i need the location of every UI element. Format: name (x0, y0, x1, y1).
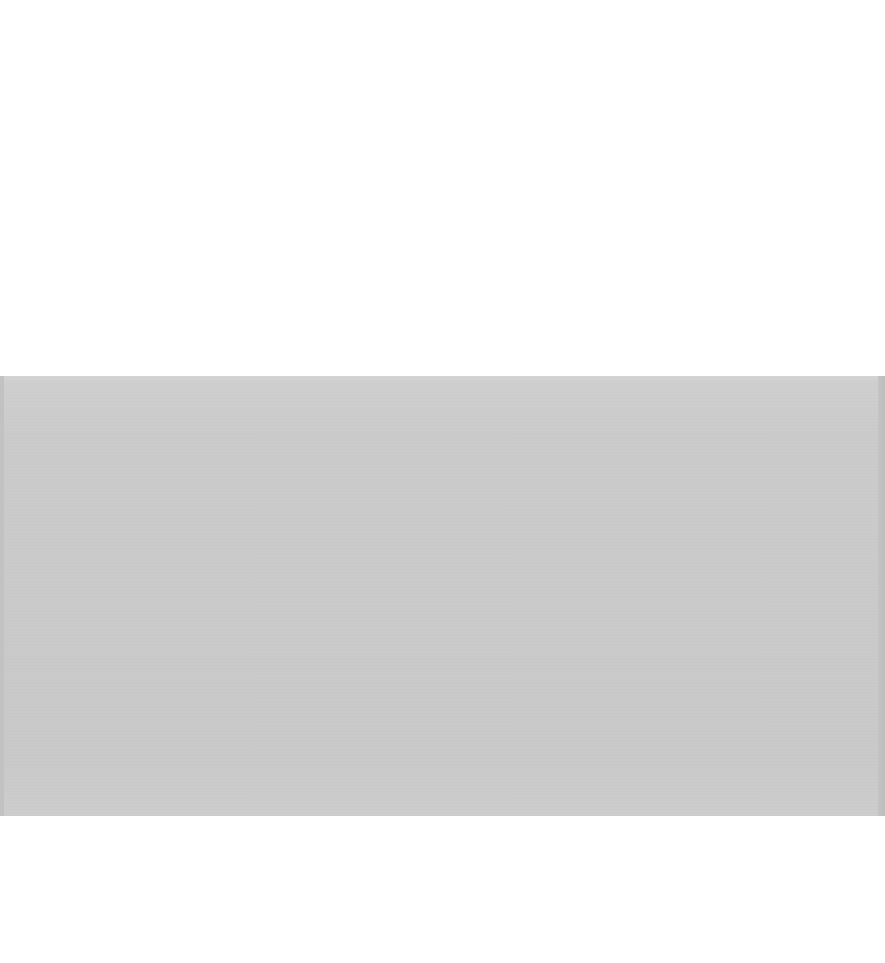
band-right-edge (878, 376, 885, 816)
band-left-edge (0, 376, 4, 816)
page (0, 0, 885, 963)
gray-placeholder-band (0, 376, 885, 816)
blank-bottom-area (0, 816, 885, 963)
blank-top-area (0, 0, 885, 376)
